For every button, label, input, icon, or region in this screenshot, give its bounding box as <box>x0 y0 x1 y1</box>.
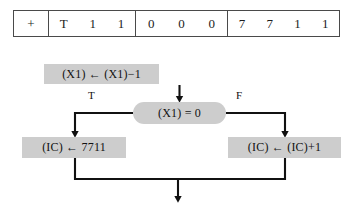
edge-true-to-set-ic <box>75 113 133 134</box>
word-cell: 0 <box>136 17 166 30</box>
diagram-canvas: + T 1 1 0 0 0 7 7 1 1 <box>0 0 354 204</box>
node-label: (IC) ← (IC)+1 <box>248 140 321 155</box>
node-label: (X1) ← (X1)−1 <box>62 67 141 82</box>
word-cell: 1 <box>79 17 107 30</box>
branch-label-true: T <box>88 89 95 101</box>
word-cell: 1 <box>107 17 135 30</box>
word-cell: 1 <box>284 17 312 30</box>
edge-false-to-increment-ic <box>226 113 285 134</box>
flowchart-node-set-ic[interactable]: (IC) ← 7711 <box>22 137 126 158</box>
flowchart: (X1) ← (X1)−1 (X1) = 0 T F (IC) ← 7711 (… <box>0 55 354 204</box>
word-cell: 1 <box>311 17 339 30</box>
flowchart-node-increment-ic[interactable]: (IC) ← (IC)+1 <box>228 137 341 158</box>
word-cell: 7 <box>256 17 284 30</box>
branch-label-false: F <box>236 89 242 101</box>
instruction-word-table: + T 1 1 0 0 0 7 7 1 1 <box>13 10 340 37</box>
word-field-opcode: T 1 1 <box>49 11 136 36</box>
word-field-2: 0 0 0 <box>136 11 228 36</box>
word-field-sign: + <box>14 11 49 36</box>
node-label: (X1) = 0 <box>158 106 201 121</box>
flowchart-node-decision[interactable]: (X1) = 0 <box>133 102 226 124</box>
word-cell: 7 <box>228 17 256 30</box>
edge-branch-merge <box>75 158 285 179</box>
word-cell: T <box>49 17 79 30</box>
word-cell: 0 <box>197 17 227 30</box>
word-cell: + <box>14 17 48 30</box>
node-label: (IC) ← 7711 <box>42 140 106 155</box>
word-field-address: 7 7 1 1 <box>228 11 339 36</box>
flowchart-node-decrement[interactable]: (X1) ← (X1)−1 <box>44 64 159 84</box>
word-cell: 0 <box>166 17 196 30</box>
